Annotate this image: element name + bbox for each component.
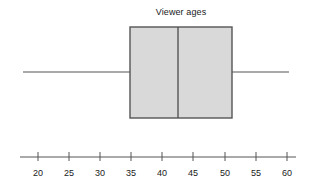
box-iqr	[130, 27, 232, 118]
axis-tick-label: 20	[33, 168, 43, 178]
axis-tick-label: 60	[282, 168, 292, 178]
axis-tick-label: 50	[220, 168, 230, 178]
axis-tick-label: 55	[251, 168, 261, 178]
axis-tick-label: 40	[157, 168, 167, 178]
boxplot-figure: Viewer ages 20 25 30 35	[0, 0, 312, 183]
boxplot-svg: 20 25 30 35 40 45 50 55 60	[0, 0, 312, 183]
axis-tick-label: 25	[64, 168, 74, 178]
axis-tick-label: 35	[126, 168, 136, 178]
axis-tick-labels: 20 25 30 35 40 45 50 55 60	[33, 168, 292, 178]
axis-tick-label: 30	[95, 168, 105, 178]
axis-tick-label: 45	[188, 168, 198, 178]
